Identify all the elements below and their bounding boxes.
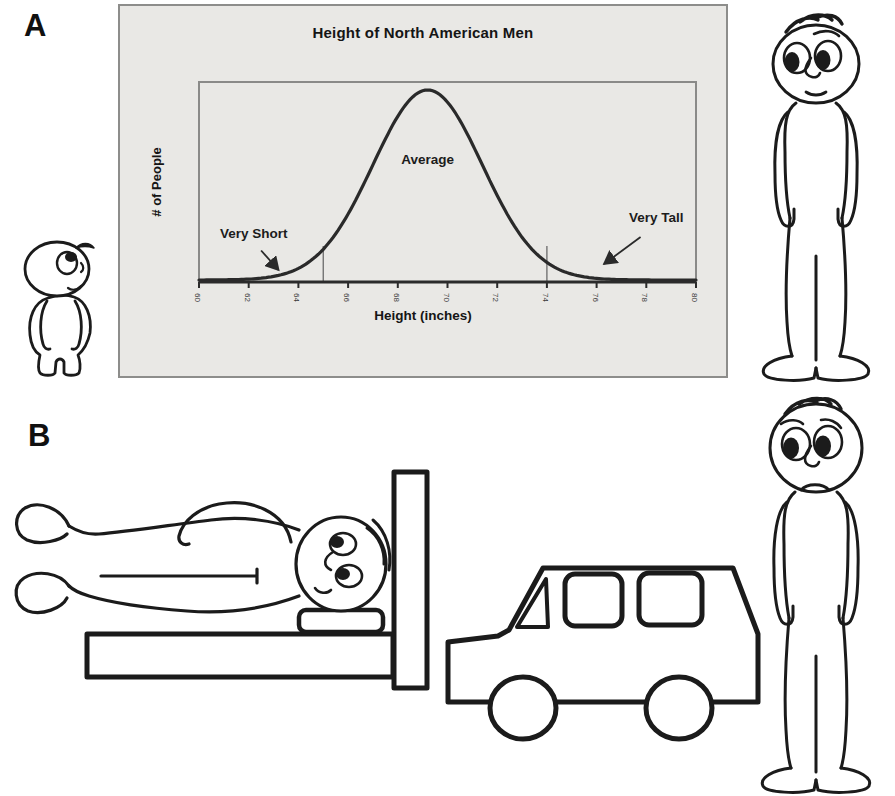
two-panel-height-figure: A 6062646668707274767880Very ShortAverag… (0, 0, 895, 796)
tall-person-figure (740, 4, 892, 384)
svg-text:Very Tall: Very Tall (629, 210, 684, 225)
person-lying-on-short-bed-figure (5, 458, 435, 708)
short-person-figure (14, 236, 120, 378)
svg-text:Very Short: Very Short (220, 226, 288, 241)
car-wheel-front (490, 677, 556, 739)
svg-text:70: 70 (442, 293, 451, 302)
car-figure (443, 552, 778, 747)
pillow (299, 610, 383, 632)
car-window-rear (639, 573, 702, 625)
svg-text:74: 74 (541, 293, 550, 302)
panel-b-label: B (28, 418, 50, 454)
headboard (394, 472, 427, 688)
svg-text:64: 64 (292, 293, 301, 302)
car-wheel-rear (646, 677, 712, 739)
svg-text:72: 72 (491, 293, 500, 302)
sad-tall-person-figure (733, 396, 895, 796)
svg-text:66: 66 (342, 293, 351, 302)
panel-a-label: A (24, 8, 46, 44)
svg-text:62: 62 (243, 293, 252, 302)
svg-text:76: 76 (591, 293, 600, 302)
bed-platform (87, 634, 393, 677)
svg-text:60: 60 (193, 293, 202, 302)
svg-text:Average: Average (401, 152, 454, 167)
svg-text:80: 80 (690, 293, 699, 302)
bell-curve-chart: 6062646668707274767880Very ShortAverageV… (120, 6, 730, 380)
car-window-front (565, 574, 622, 626)
x-axis-label: Height (inches) (120, 308, 726, 323)
chart-title: Height of North American Men (120, 24, 726, 41)
svg-text:68: 68 (392, 293, 401, 302)
height-distribution-chart-panel: 6062646668707274767880Very ShortAverageV… (118, 4, 728, 378)
svg-text:78: 78 (640, 293, 649, 302)
y-axis-label: # of People (149, 147, 164, 216)
